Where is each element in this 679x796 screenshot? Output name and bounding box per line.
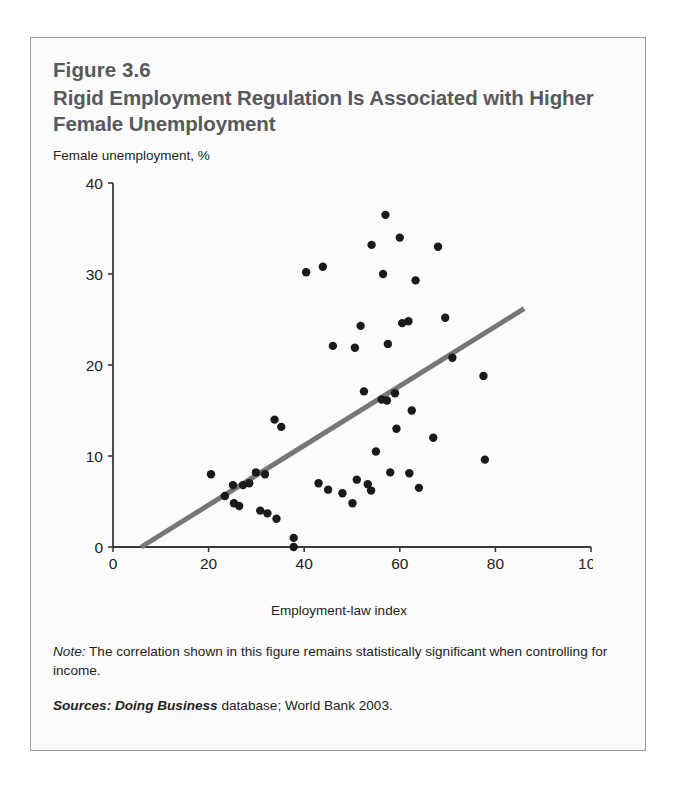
y-axis-tick-label: 10 bbox=[86, 448, 104, 465]
scatter-point bbox=[229, 481, 237, 489]
y-axis-tick-label: 0 bbox=[94, 539, 103, 556]
sources-publication: Doing Business bbox=[111, 698, 218, 713]
x-axis-tick-label: 60 bbox=[391, 555, 409, 571]
note-text: The correlation shown in this figure rem… bbox=[53, 644, 607, 678]
scatter-point bbox=[379, 270, 387, 278]
x-axis-tick-label: 0 bbox=[109, 555, 118, 571]
figure-sources: Sources: Doing Business database; World … bbox=[53, 696, 619, 715]
scatter-point bbox=[367, 241, 375, 249]
scatter-point bbox=[391, 389, 399, 397]
scatter-point bbox=[415, 484, 423, 492]
scatter-point bbox=[408, 406, 416, 414]
y-axis-tick-label: 40 bbox=[86, 175, 104, 192]
scatter-point bbox=[386, 468, 394, 476]
y-axis-tick-label: 30 bbox=[86, 266, 104, 283]
scatter-point bbox=[277, 423, 285, 431]
scatter-point bbox=[338, 489, 346, 497]
scatter-point bbox=[324, 485, 332, 493]
scatter-point bbox=[356, 322, 364, 330]
scatter-point bbox=[221, 492, 229, 500]
scatter-point bbox=[396, 233, 404, 241]
figure-note: Note: The correlation shown in this figu… bbox=[53, 642, 619, 680]
y-axis-title: Female unemployment, % bbox=[53, 148, 210, 163]
scatter-point bbox=[261, 470, 269, 478]
sources-label: Sources: bbox=[53, 698, 111, 713]
scatter-point bbox=[384, 340, 392, 348]
scatter-point bbox=[411, 276, 419, 284]
figure-number: Figure 3.6 bbox=[53, 58, 151, 82]
scatter-point bbox=[367, 486, 375, 494]
scatter-point bbox=[481, 455, 489, 463]
x-axis-tick-label: 80 bbox=[487, 555, 505, 571]
scatter-point bbox=[348, 499, 356, 507]
scatter-point bbox=[479, 372, 487, 380]
scatter-point bbox=[256, 506, 264, 514]
x-axis-title: Employment-law index bbox=[31, 603, 647, 618]
scatter-point bbox=[448, 354, 456, 362]
scatter-point bbox=[270, 415, 278, 423]
plot-svg: 010203040020406080100 bbox=[53, 171, 593, 571]
figure-content: Figure 3.6 Rigid Employment Regulation I… bbox=[31, 38, 645, 750]
scatter-point bbox=[429, 434, 437, 442]
scatter-point bbox=[360, 387, 368, 395]
x-axis-tick-label: 100 bbox=[578, 555, 593, 571]
x-axis-tick-label: 40 bbox=[296, 555, 314, 571]
scatter-point bbox=[383, 396, 391, 404]
scatter-point bbox=[392, 425, 400, 433]
scatter-point bbox=[404, 317, 412, 325]
scatter-point bbox=[351, 344, 359, 352]
scatter-plot: 010203040020406080100 bbox=[53, 171, 593, 571]
sources-text: database; World Bank 2003. bbox=[218, 698, 393, 713]
scatter-point bbox=[235, 502, 243, 510]
scatter-point bbox=[353, 475, 361, 483]
x-axis-tick-label: 20 bbox=[200, 555, 218, 571]
scatter-point bbox=[263, 509, 271, 517]
scatter-point bbox=[289, 543, 297, 551]
scatter-point bbox=[207, 470, 215, 478]
scatter-point bbox=[302, 268, 310, 276]
figure-title: Rigid Employment Regulation Is Associate… bbox=[53, 85, 623, 137]
scatter-point bbox=[314, 479, 322, 487]
note-label: Note: bbox=[53, 644, 86, 659]
scatter-point bbox=[441, 313, 449, 321]
scatter-point bbox=[372, 447, 380, 455]
scatter-point bbox=[245, 479, 253, 487]
scatter-point bbox=[329, 342, 337, 350]
scatter-point bbox=[405, 469, 413, 477]
scatter-point bbox=[289, 534, 297, 542]
scatter-point bbox=[434, 243, 442, 251]
scatter-point bbox=[272, 515, 280, 523]
scatter-point bbox=[252, 468, 260, 476]
scatter-point bbox=[319, 263, 327, 271]
y-axis-tick-label: 20 bbox=[86, 357, 104, 374]
figure-card: Figure 3.6 Rigid Employment Regulation I… bbox=[30, 37, 646, 751]
scatter-point bbox=[381, 211, 389, 219]
